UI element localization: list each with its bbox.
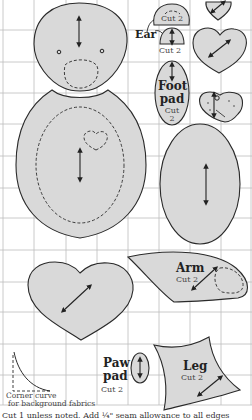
leg-cut-label: Cut 2 [181,374,203,382]
corner-curve-guide [13,355,50,391]
foot-pad-label-line1: Foot [158,80,186,92]
corner-curve-caption: Corner curve for background fabrics [6,392,95,408]
heart-right-piece [193,28,246,73]
corner-curve-caption-line2: for background fabrics [8,400,95,408]
heart-large-piece [28,262,133,340]
arm-label: Arm [176,262,204,274]
ear-label: Ear [135,29,156,40]
belly-piece [160,124,240,244]
corner-curve [14,352,50,391]
head-piece [34,3,127,91]
body-piece [16,90,146,238]
small-heart-piece [206,2,231,20]
leg-label: Leg [183,360,207,372]
footer-instructions: Cut 1 unless noted. Add ¼" seam allowanc… [2,411,229,420]
face-piece [200,92,243,122]
paw-pad-label-line2: pad [103,370,127,382]
foot-pad-cut-line2: 2 [158,115,186,123]
paw-pad-cut-label: Cut 2 [101,386,123,394]
foot-pad-label-line2: pad [158,93,186,105]
ear-inner-cut-label: Cut 2 [159,47,181,55]
arm-cut-label: Cut 2 [176,276,198,284]
paw-pad-label-line1: Paw [103,357,127,369]
ear-outer-cut-label: Cut 2 [161,15,183,23]
